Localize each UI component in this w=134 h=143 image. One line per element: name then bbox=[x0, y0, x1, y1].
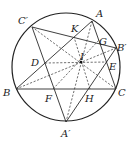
label-d: D bbox=[30, 57, 39, 68]
label-c: C bbox=[118, 87, 126, 98]
label-f: F bbox=[44, 93, 53, 104]
label-i: I bbox=[79, 51, 85, 62]
label-a: A bbox=[95, 8, 103, 19]
label-h: H bbox=[84, 93, 94, 104]
label-b-prime: B′ bbox=[116, 42, 127, 53]
segment-aprime-bprime bbox=[66, 48, 116, 122]
segment-d-e bbox=[45, 62, 107, 63]
segment-cprime-aprime bbox=[32, 27, 66, 122]
label-k: K bbox=[70, 23, 79, 34]
label-c-prime: C′ bbox=[18, 15, 29, 26]
label-b: B bbox=[2, 87, 10, 98]
circumcircle bbox=[12, 13, 120, 121]
segment-b-bprime bbox=[16, 48, 116, 89]
label-e: E bbox=[108, 61, 117, 72]
label-a-prime: A′ bbox=[60, 128, 71, 139]
geometry-diagram: ABCA′B′C′IDEFGHK bbox=[0, 0, 134, 143]
label-g: G bbox=[99, 36, 107, 47]
